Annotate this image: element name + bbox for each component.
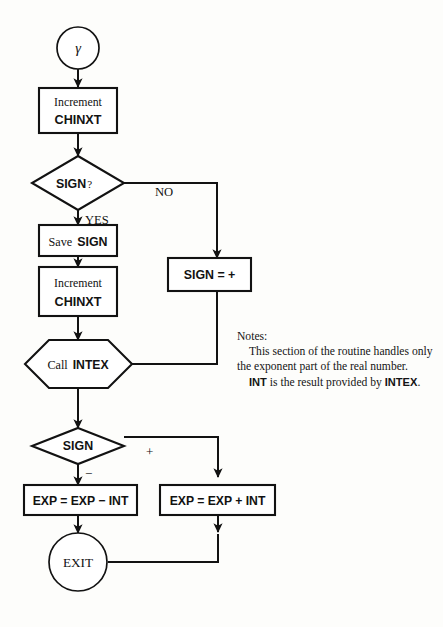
node-save-sign-word-sign: SIGN xyxy=(77,235,107,249)
edge-label-minus: − xyxy=(85,466,92,481)
node-increment1-line2: CHINXT xyxy=(55,113,102,127)
edge-signassign-to-callintex xyxy=(132,291,217,364)
node-increment1-line1: Increment xyxy=(54,95,103,109)
edge-plus-branch xyxy=(124,437,218,477)
node-save-sign-word-save: Save xyxy=(49,235,73,249)
node-call-intex-word-call: Call xyxy=(47,358,68,372)
edge-label-no: NO xyxy=(155,185,173,199)
notes-term-int: INT xyxy=(249,376,267,388)
edge-expplus-to-exit xyxy=(108,534,218,562)
node-sign-question-label: SIGN? xyxy=(56,177,92,191)
edge-label-plus: + xyxy=(146,444,153,459)
node-sign-question-mark: ? xyxy=(87,178,92,190)
node-increment2-line1: Increment xyxy=(54,276,103,290)
notes-paragraph-1: This section of the routine handles only… xyxy=(237,344,437,374)
node-sign-test-label: SIGN xyxy=(63,439,93,453)
node-call-intex-word-intex: INTEX xyxy=(73,358,110,372)
node-sign-question-text: SIGN xyxy=(56,177,86,191)
flowchart-page: γ Increment CHINXT SIGN? NO YES SaveSIGN… xyxy=(0,0,443,627)
node-increment2-line2: CHINXT xyxy=(55,295,102,309)
node-call-intex-label: CallINTEX xyxy=(47,358,109,372)
flowchart-canvas: γ Increment CHINXT SIGN? NO YES SaveSIGN… xyxy=(0,0,443,627)
notes-paragraph-2-end: . xyxy=(417,376,420,389)
node-exp-plus-label: EXP = EXP + INT xyxy=(170,494,266,508)
node-save-sign-label: SaveSIGN xyxy=(49,235,108,249)
node-exit-label: EXIT xyxy=(63,555,93,570)
node-exp-minus-label: EXP = EXP − INT xyxy=(33,494,129,508)
notes-term-intex: INTEX xyxy=(385,376,418,388)
node-sign-assign-label: SIGN = + xyxy=(184,268,236,282)
notes-block: Notes: This section of the routine handl… xyxy=(237,329,437,390)
notes-paragraph-2-body: is the result provided by xyxy=(267,376,385,389)
notes-heading: Notes: xyxy=(237,329,437,344)
notes-paragraph-2: INT is the result provided by INTEX. xyxy=(237,375,437,390)
